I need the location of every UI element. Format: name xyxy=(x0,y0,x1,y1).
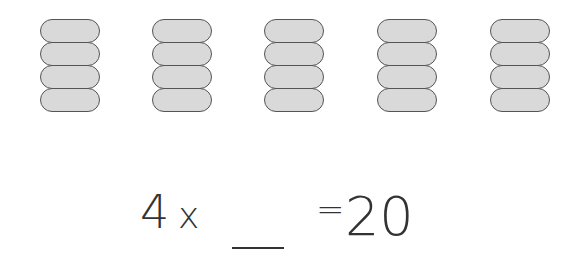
pill xyxy=(40,42,100,66)
pill xyxy=(490,88,550,112)
group-4 xyxy=(377,20,437,112)
answer-blank[interactable] xyxy=(232,247,284,249)
group-2 xyxy=(152,20,212,112)
pill xyxy=(377,88,437,112)
pill xyxy=(40,19,100,43)
pill xyxy=(490,19,550,43)
pill xyxy=(377,65,437,89)
pill xyxy=(264,88,324,112)
times-operator: x xyxy=(178,195,199,236)
equals-sign: = xyxy=(316,189,345,229)
group-1 xyxy=(40,20,100,112)
equation: 4 x = 20 xyxy=(0,185,569,255)
pill xyxy=(152,19,212,43)
factor-text: 4 xyxy=(140,185,169,239)
pill xyxy=(377,19,437,43)
group-5 xyxy=(490,20,550,112)
pill xyxy=(377,42,437,66)
pill xyxy=(490,42,550,66)
pill xyxy=(152,65,212,89)
pill xyxy=(152,88,212,112)
group-3 xyxy=(264,20,324,112)
product-text: 20 xyxy=(345,185,414,248)
pill xyxy=(40,65,100,89)
pill xyxy=(152,42,212,66)
pill xyxy=(264,65,324,89)
pill xyxy=(40,88,100,112)
pill xyxy=(490,65,550,89)
pill xyxy=(264,19,324,43)
pill xyxy=(264,42,324,66)
